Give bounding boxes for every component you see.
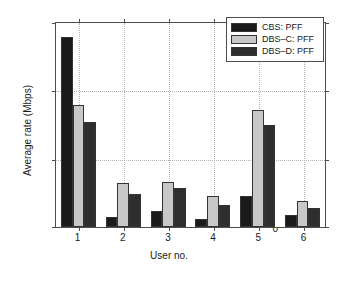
gridline-y-10 — [56, 91, 325, 92]
x-tick-label-6: 6 — [301, 232, 307, 243]
x-axis-label: User no. — [0, 250, 338, 261]
bar-group-5-series-2 — [252, 110, 264, 227]
bar-group-5-series-1 — [240, 196, 252, 227]
x-tick-mark-5 — [259, 227, 260, 231]
figure-bar-chart: Average rate (Mbps) 0 5 10 15 1 2 3 4 5 … — [0, 0, 338, 283]
x-tick-mark-1 — [79, 227, 80, 231]
gridline-y-5 — [56, 160, 325, 161]
legend-label-dbs-d-pff: DBS–D: PFF — [262, 47, 314, 56]
bar-group-4-series-3 — [219, 205, 231, 227]
y-axis-label: Average rate (Mbps) — [22, 56, 33, 206]
y-tick-mark-right-10 — [325, 91, 329, 92]
bar-group-4-series-2 — [207, 196, 219, 227]
x-tick-mark-3 — [169, 227, 170, 231]
bar-group-1-series-1 — [61, 37, 73, 227]
bar-group-6-series-1 — [285, 215, 297, 227]
bar-group-3-series-2 — [162, 182, 174, 227]
y-tick-mark-right-15 — [325, 23, 329, 24]
legend-swatch-cbs-pff — [231, 23, 257, 32]
legend-entry-dbs-d-pff: DBS–D: PFF — [231, 46, 319, 57]
bar-group-1-series-2 — [73, 105, 85, 227]
bar-group-6-series-3 — [308, 208, 320, 227]
x-tick-mark-2 — [124, 227, 125, 231]
bar-group-5-series-3 — [264, 125, 276, 227]
x-tick-mark-4 — [214, 227, 215, 231]
y-tick-mark-right-0 — [325, 227, 329, 228]
x-tick-label-5: 5 — [255, 232, 261, 243]
x-tick-label-4: 4 — [210, 232, 216, 243]
legend-entry-cbs-pff: CBS: PFF — [231, 22, 319, 33]
bar-group-2-series-1 — [106, 217, 118, 227]
legend-label-cbs-pff: CBS: PFF — [262, 23, 303, 32]
bar-group-3-series-1 — [151, 211, 163, 227]
bar-group-3-series-3 — [174, 188, 186, 227]
y-axis-label-wrapper: Average rate (Mbps) — [14, 0, 15, 1]
legend-swatch-dbs-c-pff — [231, 35, 257, 44]
x-tick-label-2: 2 — [120, 232, 126, 243]
bar-group-2-series-3 — [129, 194, 141, 227]
x-tick-label-3: 3 — [165, 232, 171, 243]
bar-group-4-series-1 — [195, 219, 207, 227]
bar-group-6-series-2 — [297, 201, 309, 227]
y-tick-mark-right-5 — [325, 160, 329, 161]
y-tick-mark-0 — [52, 227, 56, 228]
legend-label-dbs-c-pff: DBS–C: PFF — [262, 35, 314, 44]
legend-entry-dbs-c-pff: DBS–C: PFF — [231, 34, 319, 45]
x-tick-mark-6 — [304, 227, 305, 231]
bar-group-1-series-3 — [84, 122, 96, 227]
legend-swatch-dbs-d-pff — [231, 47, 257, 56]
x-tick-label-1: 1 — [75, 232, 81, 243]
bar-group-2-series-2 — [117, 183, 129, 227]
legend: CBS: PFF DBS–C: PFF DBS–D: PFF — [226, 17, 324, 62]
